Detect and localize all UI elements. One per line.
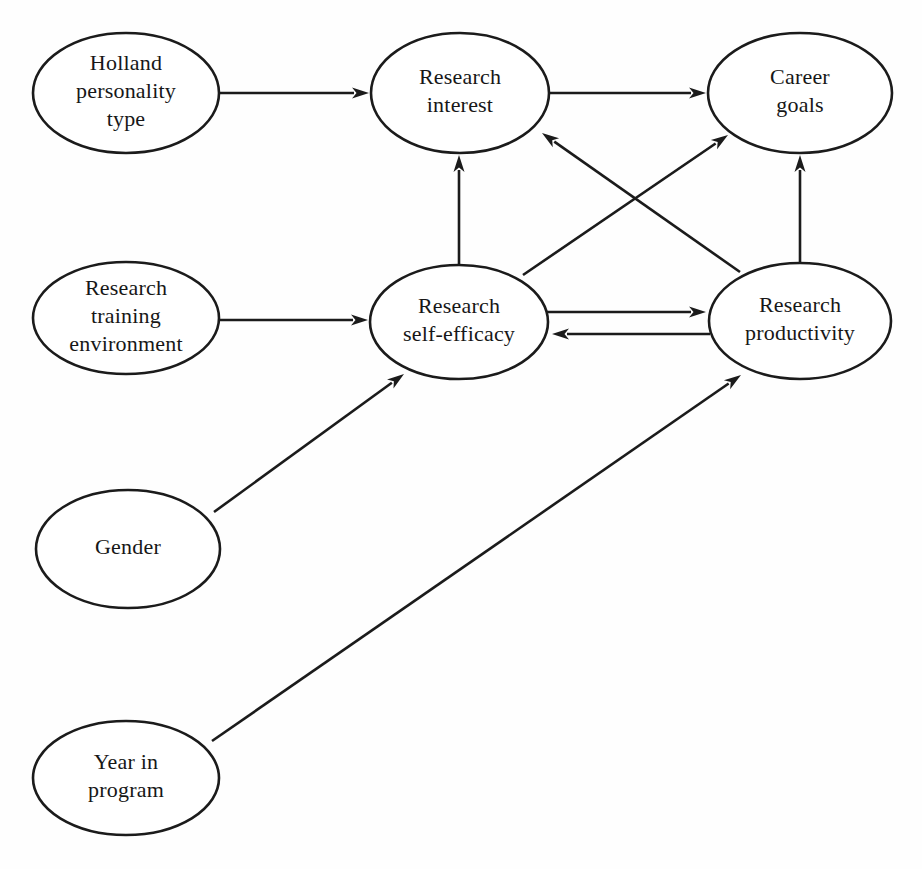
node-research_training_environment[interactable]: Researchtrainingenvironment — [33, 262, 219, 374]
node-label-line: Research — [759, 292, 841, 317]
edge-shaft — [523, 143, 716, 275]
arrow-head-icon — [795, 155, 806, 172]
edge-rte-to-selfefficacy — [219, 315, 368, 326]
edge-productivity-to-interest — [542, 133, 740, 272]
node-label-line: goals — [776, 92, 823, 117]
node-label-line: interest — [427, 92, 493, 117]
edge-interest-to-career — [550, 88, 706, 99]
edge-selfefficacy-to-productivity — [547, 307, 706, 318]
node-label-line: productivity — [745, 320, 855, 345]
node-label-line: training — [91, 303, 161, 328]
node-research_self_efficacy[interactable]: Researchself-efficacy — [370, 265, 548, 379]
node-label-line: Career — [770, 64, 830, 89]
arrow-head-icon — [724, 375, 741, 389]
node-label-line: personality — [76, 78, 176, 103]
node-label-line: environment — [69, 331, 182, 356]
node-career_goals[interactable]: Careergoals — [708, 33, 892, 153]
edge-selfefficacy-to-career — [523, 135, 728, 275]
arrow-head-icon — [454, 155, 465, 172]
arrow-head-icon — [689, 88, 706, 99]
arrow-head-icon — [542, 133, 559, 147]
edge-gender-to-selfefficacy — [214, 374, 404, 512]
nodes-layer: HollandpersonalitytypeResearchinterestCa… — [33, 33, 892, 835]
node-label-line: Holland — [90, 50, 162, 75]
node-gender[interactable]: Gender — [36, 490, 220, 608]
edge-shaft — [214, 383, 392, 512]
node-label-line: type — [107, 106, 146, 131]
node-year_in_program[interactable]: Year inprogram — [33, 721, 219, 835]
node-label-line: Research — [85, 275, 167, 300]
path-diagram: HollandpersonalitytypeResearchinterestCa… — [0, 0, 922, 869]
node-label-gender: Gender — [95, 534, 161, 559]
edge-shaft — [554, 142, 740, 272]
edge-year-to-productivity — [212, 375, 741, 741]
node-research_interest[interactable]: Researchinterest — [371, 33, 549, 153]
arrow-head-icon — [351, 315, 368, 326]
node-label-line: self-efficacy — [403, 321, 515, 346]
node-label-line: Gender — [95, 534, 161, 559]
arrow-head-icon — [352, 88, 369, 99]
edge-selfefficacy-to-interest — [454, 155, 465, 264]
node-holland[interactable]: Hollandpersonalitytype — [33, 33, 219, 153]
edge-shaft — [212, 384, 729, 741]
edge-productivity-to-selfefficacy — [552, 329, 710, 340]
model-canvas: HollandpersonalitytypeResearchinterestCa… — [0, 0, 922, 869]
arrow-head-icon — [689, 307, 706, 318]
node-research_productivity[interactable]: Researchproductivity — [709, 263, 891, 379]
node-label-line: Research — [418, 293, 500, 318]
arrow-head-icon — [387, 374, 404, 388]
edges-layer — [212, 88, 806, 742]
arrow-head-icon — [552, 329, 569, 340]
arrow-head-icon — [711, 135, 728, 149]
edge-holland-to-interest — [219, 88, 369, 99]
edge-productivity-to-career — [795, 155, 806, 262]
node-label-line: program — [88, 777, 164, 802]
node-label-line: Research — [419, 64, 501, 89]
node-label-line: Year in — [94, 749, 159, 774]
